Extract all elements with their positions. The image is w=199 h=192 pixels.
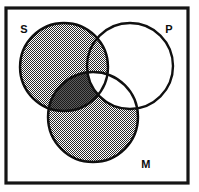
venn-diagram-canvas: S P M xyxy=(0,0,199,192)
label-s: S xyxy=(20,23,28,35)
label-m: M xyxy=(141,158,150,170)
label-p: P xyxy=(165,23,173,35)
venn-diagram-figure: S P M xyxy=(0,0,199,192)
